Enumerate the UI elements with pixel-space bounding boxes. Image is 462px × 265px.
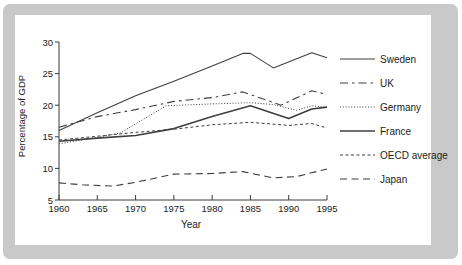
figure: 3025201510519601965197019751980198519901…	[0, 0, 462, 265]
y-tick-label: 30	[42, 37, 53, 48]
y-tick-label: 15	[42, 131, 53, 142]
legend-label: Sweden	[380, 54, 416, 65]
x-tick-label: 1960	[48, 203, 69, 214]
x-tick-label: 1965	[87, 203, 108, 214]
y-tick-label: 10	[42, 163, 53, 174]
x-tick-label: 1995	[316, 203, 337, 214]
y-axis-label: Percentage of GDP	[16, 75, 27, 157]
x-tick-label: 1980	[202, 203, 223, 214]
legend-label: Germany	[380, 102, 421, 113]
x-axis-label: Year	[181, 219, 202, 230]
y-tick-label: 20	[42, 100, 53, 111]
series-line-japan	[59, 169, 327, 186]
legend-label: France	[380, 126, 412, 137]
x-tick-label: 1975	[163, 203, 184, 214]
legend-label: OECD average	[380, 150, 448, 161]
series-line-sweden	[59, 53, 327, 131]
y-tick-label: 25	[42, 68, 53, 79]
legend-label: UK	[380, 78, 394, 89]
x-tick-label: 1985	[240, 203, 261, 214]
legend-label: Japan	[380, 174, 407, 185]
x-tick-label: 1970	[125, 203, 146, 214]
x-tick-label: 1990	[278, 203, 299, 214]
line-chart: 3025201510519601965197019751980198519901…	[0, 0, 462, 265]
